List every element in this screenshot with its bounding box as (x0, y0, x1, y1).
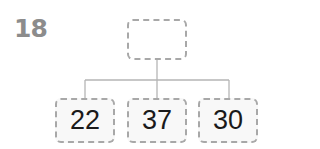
child-box-2: 37 (127, 98, 187, 143)
child-box-3: 30 (198, 98, 258, 143)
child-box-1: 22 (55, 98, 115, 143)
root-answer-box[interactable] (127, 19, 187, 60)
